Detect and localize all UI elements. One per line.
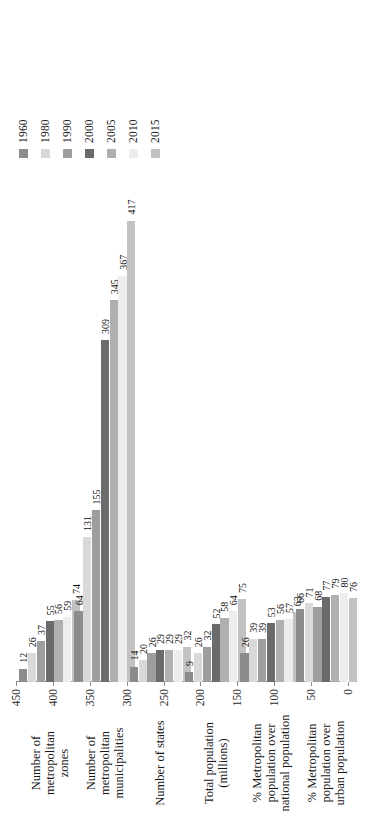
legend-label: 2010 — [127, 119, 139, 143]
bar-row: 26 — [28, 184, 36, 682]
bar — [249, 639, 257, 682]
legend-swatch-icon — [107, 149, 116, 158]
bar-row: 26 — [147, 184, 155, 682]
legend-swatch-icon — [85, 149, 94, 158]
bar — [28, 653, 36, 682]
bar — [37, 641, 45, 682]
bar-row: 367 — [118, 184, 126, 682]
bar — [229, 611, 237, 682]
legend-item: 1980 — [34, 119, 56, 158]
bar-row: 29 — [156, 184, 164, 682]
bar — [322, 597, 330, 682]
bar — [156, 650, 164, 682]
group-caption: Number of states — [153, 688, 167, 816]
bar-group: 66716877798076% Metropolitan population … — [293, 184, 348, 682]
bar — [220, 618, 228, 682]
chart-legend: 1960198019902000200520102015 — [12, 119, 166, 158]
bar-group: 12263755565974Number of metropolitan zon… — [16, 184, 71, 682]
bar — [305, 603, 313, 682]
bar — [92, 510, 100, 682]
bar — [139, 660, 147, 682]
bar-group: 64131155309345367417Number of metropolit… — [71, 184, 126, 682]
bar-row: 59 — [63, 184, 71, 682]
group-caption: Number of metropolitan zones — [29, 688, 71, 816]
bar — [331, 595, 339, 682]
axis-tick-label: 150 — [231, 682, 243, 706]
legend-label: 2000 — [83, 119, 95, 143]
bar-row: 64 — [229, 184, 237, 682]
bar — [118, 276, 126, 682]
bar — [46, 621, 54, 682]
bar-row: 80 — [340, 184, 348, 682]
bar-group: 9263252586475Total population (millions) — [182, 184, 237, 682]
legend-label: 1990 — [61, 119, 73, 143]
group-caption: Number of metropolitan municipalities — [84, 688, 126, 816]
bar-row: 29 — [174, 184, 182, 682]
bar-row: 39 — [249, 184, 257, 682]
legend-item: 2015 — [144, 119, 166, 158]
bar — [54, 620, 62, 682]
group-caption: % Metropolitan population over urban pop… — [305, 688, 347, 816]
bar — [349, 598, 357, 682]
bar — [313, 607, 321, 682]
bar-row: 64 — [74, 184, 82, 682]
bar — [83, 537, 91, 682]
bar-row: 309 — [101, 184, 109, 682]
bar — [174, 650, 182, 682]
legend-item: 2005 — [100, 119, 122, 158]
bar — [74, 611, 82, 682]
chart-plot-area: 050100150200250300350400450 122637555659… — [16, 184, 348, 682]
bar-row: 57 — [284, 184, 292, 682]
bar — [267, 623, 275, 682]
axis-tick-label: 450 — [10, 682, 22, 706]
group-caption: Total population (millions) — [202, 688, 230, 816]
bar-row: 32 — [203, 184, 211, 682]
legend-item: 1960 — [12, 119, 34, 158]
bar-group: 14202629292932Number of states — [127, 184, 182, 682]
bar — [130, 667, 138, 682]
legend-item: 2000 — [78, 119, 100, 158]
bar — [185, 672, 193, 682]
bar — [203, 647, 211, 682]
legend-swatch-icon — [19, 149, 28, 158]
bar-row: 9 — [185, 184, 193, 682]
bar — [19, 669, 27, 682]
bar — [284, 619, 292, 682]
bar — [240, 653, 248, 682]
bar-row: 14 — [130, 184, 138, 682]
bar-row: 58 — [220, 184, 228, 682]
legend-label: 1960 — [17, 119, 29, 143]
bar-value-label: 76 — [347, 582, 358, 592]
bar — [165, 650, 173, 682]
bar-row: 131 — [83, 184, 91, 682]
legend-label: 2005 — [105, 119, 117, 143]
bar-row: 26 — [194, 184, 202, 682]
bar — [340, 593, 348, 682]
bar — [296, 609, 304, 682]
legend-item: 1990 — [56, 119, 78, 158]
bar-row: 66 — [296, 184, 304, 682]
legend-swatch-icon — [41, 149, 50, 158]
bar — [212, 624, 220, 682]
bar — [276, 620, 284, 682]
legend-label: 1980 — [39, 119, 51, 143]
bar-row: 76 — [349, 184, 357, 682]
bar-group: 26393953565763% Metropolitan population … — [237, 184, 292, 682]
bar — [101, 340, 109, 682]
legend-swatch-icon — [129, 149, 138, 158]
legend-item: 2010 — [122, 119, 144, 158]
bar-row: 26 — [240, 184, 248, 682]
legend-label: 2015 — [149, 119, 161, 143]
bar-row: 79 — [331, 184, 339, 682]
bar-row: 20 — [139, 184, 147, 682]
bar-row: 155 — [92, 184, 100, 682]
bar-row: 29 — [165, 184, 173, 682]
bar-row: 12 — [19, 184, 27, 682]
bar — [147, 653, 155, 682]
bar-row: 71 — [305, 184, 313, 682]
legend-swatch-icon — [151, 149, 160, 158]
bar — [110, 300, 118, 682]
bar-row: 68 — [313, 184, 321, 682]
